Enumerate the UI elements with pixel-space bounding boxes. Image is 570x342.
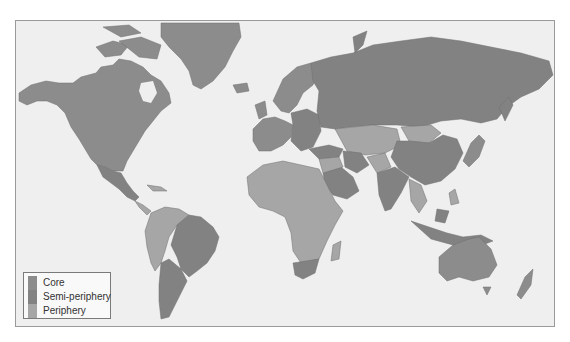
region-new-zealand bbox=[517, 269, 533, 299]
legend-item-semi-periphery: Semi-periphery bbox=[28, 290, 111, 304]
legend-swatch-periphery bbox=[28, 304, 37, 318]
region-eastern-europe bbox=[291, 109, 321, 151]
region-russia bbox=[311, 37, 553, 129]
region-japan bbox=[463, 135, 485, 167]
region-south-africa bbox=[293, 259, 319, 279]
region-india bbox=[377, 167, 409, 211]
legend-item-core: Core bbox=[28, 276, 65, 290]
legend-swatch-semi-periphery bbox=[28, 290, 37, 304]
map-legend: Core Semi-periphery Periphery bbox=[23, 272, 111, 319]
region-western-europe bbox=[253, 117, 293, 151]
region-north-america bbox=[19, 59, 171, 171]
legend-label: Core bbox=[43, 276, 65, 290]
legend-label: Semi-periphery bbox=[43, 290, 111, 304]
region-central-asia bbox=[335, 125, 401, 155]
legend-label: Periphery bbox=[43, 304, 86, 318]
legend-item-periphery: Periphery bbox=[28, 304, 86, 318]
region-greenland bbox=[161, 23, 241, 89]
legend-swatch-core bbox=[28, 276, 37, 290]
